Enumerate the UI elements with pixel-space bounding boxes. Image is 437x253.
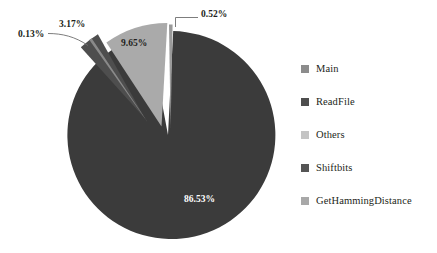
- leader-line-shiftbits: [48, 34, 88, 46]
- slice-label-others: 9.65%: [121, 38, 147, 48]
- legend-label-gethammingdistance: GetHammingDistance: [316, 184, 412, 217]
- leader-line-gethammingdistance: [176, 18, 199, 28]
- slice-label-gethammingdistance: 0.52%: [201, 9, 227, 19]
- legend-item-others[interactable]: Others: [301, 118, 437, 151]
- slice-label-shiftbits: 0.13%: [18, 29, 44, 39]
- pie-chart-figure: 0.13% 3.17% 9.65% 0.52% 86.53% Main Read…: [0, 0, 437, 253]
- chart-legend: Main ReadFile Others Shiftbits GetHammin…: [301, 52, 437, 217]
- legend-item-main[interactable]: Main: [301, 52, 437, 85]
- slice-label-readfile: 3.17%: [59, 19, 85, 29]
- legend-swatch-icon: [301, 65, 309, 73]
- legend-label-readfile: ReadFile: [316, 85, 355, 118]
- legend-swatch-icon: [301, 98, 309, 106]
- legend-item-gethammingdistance[interactable]: GetHammingDistance: [301, 184, 437, 217]
- legend-swatch-icon: [301, 131, 309, 139]
- legend-label-shiftbits: Shiftbits: [316, 151, 353, 184]
- legend-swatch-icon: [301, 164, 309, 172]
- legend-label-others: Others: [316, 118, 345, 151]
- legend-label-main: Main: [316, 52, 339, 85]
- legend-swatch-icon: [301, 197, 309, 205]
- legend-item-shiftbits[interactable]: Shiftbits: [301, 151, 437, 184]
- legend-item-readfile[interactable]: ReadFile: [301, 85, 437, 118]
- slice-label-main: 86.53%: [184, 194, 215, 204]
